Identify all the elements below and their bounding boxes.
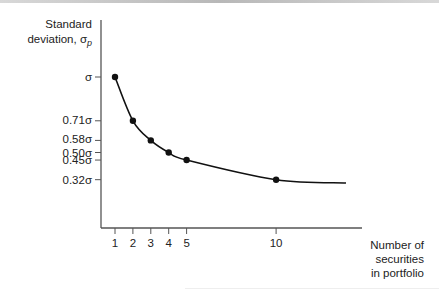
data-point — [112, 74, 118, 80]
data-point — [273, 176, 279, 182]
data-point — [148, 137, 154, 143]
ticks: 1234510σ0.71σ0.58σ0.50σ0.45σ0.32σ — [63, 71, 283, 249]
y-tick-label: 0.45σ — [63, 154, 92, 166]
chart-area: 1234510σ0.71σ0.58σ0.50σ0.45σ0.32σ — [0, 0, 439, 290]
data-point — [130, 118, 136, 124]
y-tick-label: 0.71σ — [63, 114, 92, 126]
data-point — [166, 149, 172, 155]
axes — [101, 20, 362, 228]
y-tick-label: 0.58σ — [63, 133, 92, 145]
x-tick-label: 3 — [148, 237, 154, 249]
data-point — [183, 157, 189, 163]
data-points — [112, 74, 279, 183]
x-tick-label: 5 — [183, 237, 189, 249]
x-tick-label: 1 — [112, 237, 118, 249]
x-tick-label: 4 — [165, 237, 172, 249]
y-tick-label: σ — [85, 71, 92, 83]
x-tick-label: 2 — [130, 237, 136, 249]
data-curve — [115, 77, 346, 183]
x-tick-label: 10 — [270, 237, 283, 249]
y-tick-label: 0.32σ — [63, 174, 92, 186]
